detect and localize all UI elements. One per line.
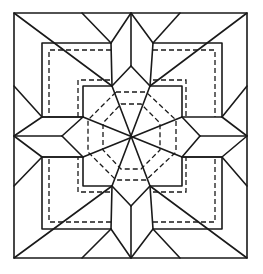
center-octagon-spokes bbox=[83, 86, 182, 186]
pattern-svg bbox=[0, 0, 263, 274]
quilt-pattern-diagram bbox=[0, 0, 263, 274]
